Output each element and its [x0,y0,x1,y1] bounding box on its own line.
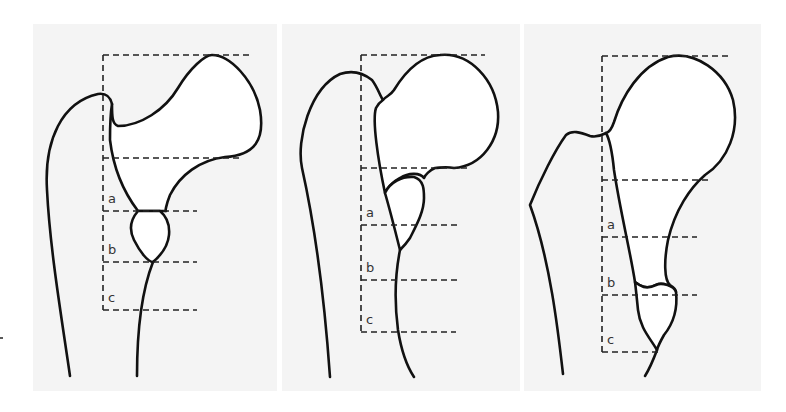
panel-3-label-a: a [607,217,615,232]
panel-1-label-b: b [108,242,116,257]
panel-1-label-c: c [108,290,115,305]
panel-3-label-c: c [607,332,614,347]
panel-2-label-a: a [366,205,374,220]
panel-2-label-b: b [366,260,374,275]
femur-diagram: a b c a b c a b c [0,0,786,412]
panel-3-label-b: b [607,275,615,290]
panel-1-label-a: a [108,191,116,206]
panel-2-label-c: c [366,312,373,327]
